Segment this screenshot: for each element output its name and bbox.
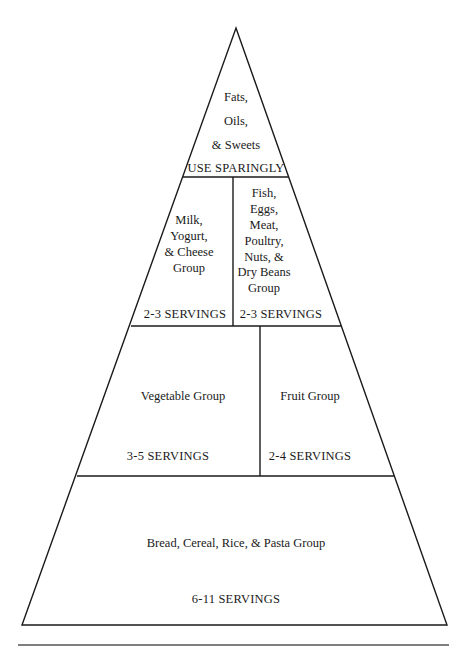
food-guide-pyramid: Fats, Oils, & Sweets USE SPARINGLY Milk,… <box>0 0 469 657</box>
group-fats-oils-sweets: Fats, Oils, & Sweets USE SPARINGLY <box>187 90 284 175</box>
group-name-line: Meat, <box>250 218 279 232</box>
group-name-line: Bread, Cereal, Rice, & Pasta Group <box>147 536 325 550</box>
group-name-line: Poultry, <box>244 234 283 248</box>
group-name-line: Oils, <box>224 114 248 128</box>
group-name-line: Group <box>248 281 280 295</box>
servings-label: 6-11 SERVINGS <box>192 592 280 606</box>
group-milk-yogurt-cheese: Milk, Yogurt, & Cheese Group 2-3 SERVING… <box>144 213 226 321</box>
servings-label: USE SPARINGLY <box>187 161 284 175</box>
group-name-line: & Cheese <box>165 245 214 259</box>
servings-label: 2-3 SERVINGS <box>144 307 226 321</box>
group-name-line: Fats, <box>224 90 248 104</box>
group-vegetable: Vegetable Group 3-5 SERVINGS <box>127 389 225 463</box>
group-name-line: Group <box>173 261 205 275</box>
group-bread-cereal-rice-pasta: Bread, Cereal, Rice, & Pasta Group 6-11 … <box>147 536 325 606</box>
servings-label: 2-3 SERVINGS <box>240 307 322 321</box>
group-name-line: Eggs, <box>250 202 278 216</box>
servings-label: 3-5 SERVINGS <box>127 449 209 463</box>
group-name-line: Fish, <box>252 186 277 200</box>
group-name-line: Dry Beans <box>237 265 290 279</box>
group-name-line: Fruit Group <box>280 389 339 403</box>
group-name-line: Yogurt, <box>170 229 207 243</box>
servings-label: 2-4 SERVINGS <box>269 449 351 463</box>
group-name-line: & Sweets <box>212 138 260 152</box>
group-meat-fish-beans: Fish, Eggs, Meat, Poultry, Nuts, & Dry B… <box>237 186 322 321</box>
group-name-line: Nuts, & <box>244 250 284 264</box>
group-fruit: Fruit Group 2-4 SERVINGS <box>269 389 351 463</box>
group-name-line: Milk, <box>175 213 202 227</box>
group-name-line: Vegetable Group <box>141 389 225 403</box>
